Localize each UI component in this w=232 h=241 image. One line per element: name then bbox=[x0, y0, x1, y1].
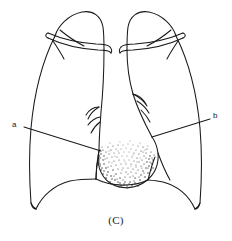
right-clavicle-end bbox=[183, 33, 185, 38]
left-diaphragm-dome bbox=[36, 179, 96, 209]
right-hilar-branch-2 bbox=[137, 101, 149, 113]
left-lung-outline bbox=[30, 36, 56, 209]
leader-line-b bbox=[152, 119, 210, 137]
right-paraspinal-line bbox=[148, 157, 155, 180]
left-hilar-branch-3 bbox=[91, 122, 100, 133]
right-clavicle-lower-edge bbox=[120, 38, 183, 53]
left-clavicle bbox=[48, 33, 110, 47]
left-clavicle-end bbox=[46, 33, 48, 38]
figure-container: a b (C) bbox=[0, 0, 232, 241]
right-lung-inner-border bbox=[127, 50, 152, 137]
annotation-label-a: a bbox=[12, 121, 16, 129]
right-diaphragm-dome bbox=[148, 180, 195, 209]
left-lung-inner-border bbox=[99, 50, 104, 151]
figure-caption: (C) bbox=[0, 214, 232, 226]
chest-xray-diagram bbox=[0, 0, 232, 241]
leader-line-a bbox=[24, 127, 101, 151]
right-clavicle bbox=[121, 33, 183, 47]
cardiac-right-border bbox=[158, 153, 170, 180]
left-clavicle-lower-edge bbox=[48, 38, 111, 53]
annotation-label-b: b bbox=[213, 112, 217, 120]
